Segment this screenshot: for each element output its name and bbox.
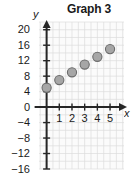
y-tick-label: −8 bbox=[6, 133, 30, 144]
y-tick-label: 20 bbox=[6, 24, 30, 35]
x-tick-label: 2 bbox=[66, 113, 78, 124]
data-point-0 bbox=[42, 83, 51, 92]
y-tick-label: 4 bbox=[6, 86, 30, 97]
data-point-3 bbox=[80, 60, 89, 69]
y-tick-label: 0 bbox=[6, 102, 30, 113]
y-tick-label: −4 bbox=[6, 117, 30, 128]
y-tick-label: 12 bbox=[6, 55, 30, 66]
data-point-2 bbox=[67, 68, 76, 77]
y-tick-label: −16 bbox=[6, 164, 30, 175]
x-tick-label: 1 bbox=[53, 113, 65, 124]
y-tick-label: 16 bbox=[6, 40, 30, 51]
y-tick-label: 8 bbox=[6, 71, 30, 82]
y-tick-label: −12 bbox=[6, 148, 30, 159]
x-tick-label: 5 bbox=[104, 113, 116, 124]
data-point-5 bbox=[105, 44, 114, 53]
data-point-4 bbox=[93, 52, 102, 61]
plot-background bbox=[39, 22, 124, 169]
x-tick-label: 4 bbox=[91, 113, 103, 124]
x-tick-label: 3 bbox=[79, 113, 91, 124]
chart-figure: Graph 3 y x 201612840−4−8−12−16 12345 bbox=[0, 0, 134, 183]
data-point-1 bbox=[55, 75, 64, 84]
